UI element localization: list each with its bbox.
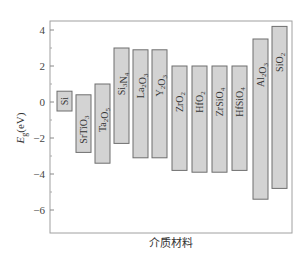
bar-label: Si bbox=[59, 97, 70, 106]
bars-group: SiSrTiO3Ta2O5Si3N4La2O3Y2O3ZrO2HfO2ZrSiO… bbox=[57, 26, 287, 199]
y-tick-label: 4 bbox=[40, 24, 46, 36]
bar-hfo2: HfO2 bbox=[192, 66, 207, 172]
bar-rect bbox=[272, 26, 287, 188]
x-axis-title: 介质材料 bbox=[149, 236, 193, 250]
bar-rect bbox=[212, 66, 227, 172]
y-axis: 420−2−4−6 bbox=[33, 24, 54, 216]
bar-zrsio4: ZrSiO4 bbox=[212, 66, 227, 172]
bar-al2o3: Al2O3 bbox=[253, 39, 270, 199]
bar-rect bbox=[232, 66, 247, 170]
bar-hfsio4: HfSiO4 bbox=[232, 66, 247, 170]
y-tick-label: 0 bbox=[40, 96, 46, 108]
bar-rect bbox=[133, 50, 148, 158]
bar-la2o3: La2O3 bbox=[133, 50, 150, 158]
bar-si3n4: Si3N4 bbox=[114, 48, 131, 143]
y-tick-label: −2 bbox=[33, 132, 45, 144]
bar-ta2o5: Ta2O5 bbox=[95, 84, 112, 163]
bar-si: Si bbox=[57, 91, 72, 111]
y-axis-title: Eg(eV) bbox=[14, 112, 29, 144]
y-tick-label: 2 bbox=[40, 60, 46, 72]
bar-srtio3: SrTiO3 bbox=[76, 95, 91, 153]
bar-y2o3: Y2O3 bbox=[152, 50, 169, 158]
y-tick-label: −6 bbox=[33, 204, 45, 216]
bar-sio2: SiO2 bbox=[272, 26, 287, 188]
band-offset-chart: 420−2−4−6 SiSrTiO3Ta2O5Si3N4La2O3Y2O3ZrO… bbox=[0, 0, 308, 253]
bar-rect bbox=[172, 66, 187, 170]
bar-rect bbox=[152, 50, 167, 158]
bar-rect bbox=[192, 66, 207, 172]
bar-zro2: ZrO2 bbox=[172, 66, 187, 170]
y-tick-label: −4 bbox=[33, 168, 45, 180]
